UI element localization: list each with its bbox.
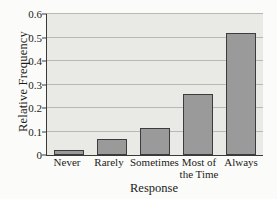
x-tick-label: Never [46,157,88,180]
y-tick-label: 0.5 [12,32,42,44]
y-tick-mark [42,84,47,85]
bar [226,33,256,155]
y-tick-label: 0.4 [12,55,42,67]
x-axis-title: Response [46,181,262,196]
plot-area [46,14,263,156]
y-tick-label: 0.6 [12,8,42,20]
x-tick-label-line: Most of [182,156,217,168]
x-axis-tick-labels: NeverRarelySometimesMost ofthe TimeAlway… [46,157,262,180]
y-axis-tick-labels: 00.10.20.30.40.50.6 [12,0,42,199]
y-tick-label: 0.2 [12,102,42,114]
x-tick-label-line: Never [54,156,81,168]
y-tick-label: 0.3 [12,79,42,91]
y-tick-mark [42,61,47,62]
x-tick-label-line: Always [224,156,258,168]
x-tick-label-line: Sometimes [130,156,179,168]
bar [54,150,84,155]
bar-series [47,14,263,155]
y-tick-label: 0.1 [12,126,42,138]
x-tick-label: Most ofthe Time [178,157,220,180]
y-tick-mark [42,14,47,15]
y-tick-label: 0 [12,149,42,161]
x-tick-label: Always [220,157,262,180]
bar-chart-figure: Relative Frequency 00.10.20.30.40.50.6 N… [0,0,277,199]
y-tick-mark [42,37,47,38]
y-tick-mark [42,108,47,109]
x-tick-label-line: Rarely [94,156,123,168]
y-tick-mark [42,131,47,132]
bar [97,139,127,155]
bar [183,94,213,155]
x-tick-label: Rarely [88,157,130,180]
x-tick-label-line: the Time [178,169,220,181]
bar [140,128,170,155]
x-tick-label: Sometimes [130,157,178,180]
y-tick-mark [42,155,47,156]
